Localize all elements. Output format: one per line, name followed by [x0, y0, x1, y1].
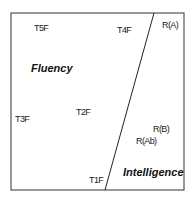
- frame-border: [11, 13, 184, 190]
- point-rb: R(B): [153, 124, 169, 134]
- point-t4f: T4F: [117, 25, 131, 35]
- region-intelligence: Intelligence: [123, 166, 184, 178]
- divider-line: [105, 13, 154, 190]
- point-rab: R(Ab): [136, 136, 157, 146]
- region-fluency: Fluency: [31, 62, 73, 74]
- point-ra: R(A): [162, 20, 178, 30]
- point-t1f: T1F: [89, 175, 103, 185]
- point-t2f: T2F: [76, 107, 90, 117]
- point-t5f: T5F: [34, 23, 48, 33]
- point-t3f: T3F: [15, 114, 29, 124]
